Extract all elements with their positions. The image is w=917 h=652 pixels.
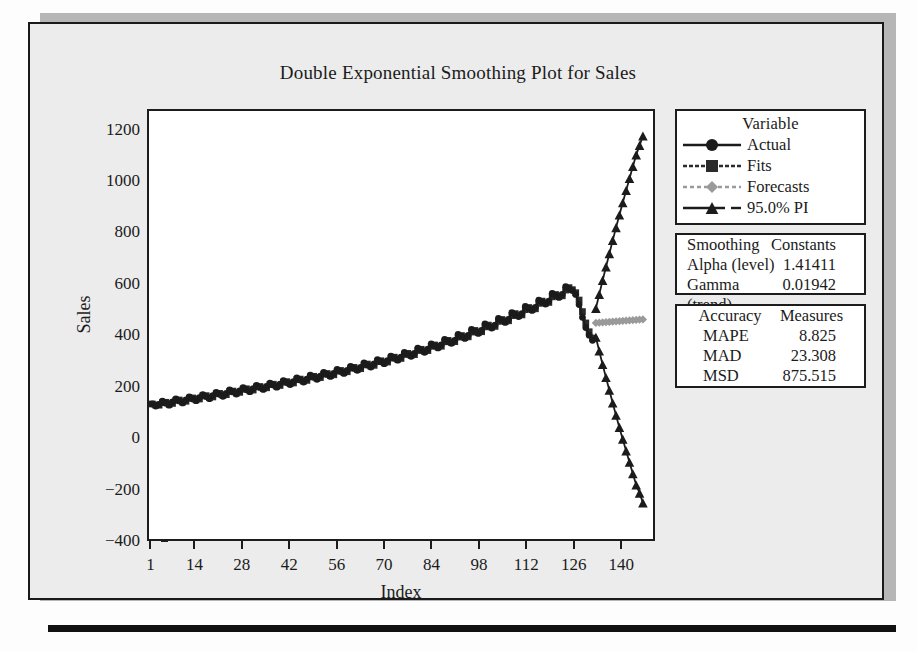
accuracy-measures-box: Accuracy Measures MAPE8.825MAD23.308MSD8… xyxy=(675,304,866,388)
scanned-page: Double Exponential Smoothing Plot for Sa… xyxy=(0,0,917,652)
stat-value: 23.308 xyxy=(783,346,854,366)
y-tick-label: 0 xyxy=(132,428,141,448)
x-axis-ticks: 114284256708498112126140 xyxy=(147,541,655,581)
triangle-marker xyxy=(681,197,743,218)
x-tick-label: 1 xyxy=(146,555,155,575)
stat-value: 1.41411 xyxy=(783,255,854,275)
x-tick-mark xyxy=(525,541,527,549)
y-tick-label: −400 xyxy=(105,531,140,551)
legend-item-label: Actual xyxy=(747,135,791,155)
accuracy-measures-header: Accuracy Measures xyxy=(677,306,864,326)
legend-header: Variable xyxy=(677,111,864,134)
x-tick-label: 84 xyxy=(423,555,440,575)
y-tick-label: 1000 xyxy=(106,171,140,191)
x-tick-label: 28 xyxy=(233,555,250,575)
x-tick-mark xyxy=(620,541,622,549)
y-axis-label: Sales xyxy=(74,255,95,375)
accuracy-header-right: Measures xyxy=(773,306,854,326)
x-tick-label: 126 xyxy=(561,555,587,575)
accuracy-measures-rows: MAPE8.825MAD23.308MSD875.515 xyxy=(677,326,864,386)
x-tick-mark xyxy=(383,541,385,549)
stat-key: Gamma (trend) xyxy=(687,275,782,295)
legend-box: Variable ActualFitsForecasts95.0% PI xyxy=(675,109,866,225)
smoothing-header-right: Constants xyxy=(765,235,854,255)
stat-key: Alpha (level) xyxy=(687,255,783,275)
x-tick-mark xyxy=(193,541,195,549)
diamond-marker xyxy=(681,176,743,197)
y-tick-label: 1200 xyxy=(106,120,140,140)
x-tick-mark xyxy=(288,541,290,549)
y-axis-ticks: 120010008006004002000−200−400 xyxy=(50,109,140,541)
y-tick-label: 200 xyxy=(115,377,141,397)
stat-key: MAPE xyxy=(687,326,783,346)
stat-row: MAPE8.825 xyxy=(677,326,864,346)
circle-marker xyxy=(681,134,743,155)
smoothing-header-left: Smoothing xyxy=(687,235,765,255)
stat-value: 8.825 xyxy=(783,326,854,346)
x-tick-label: 112 xyxy=(514,555,539,575)
stat-row: Gamma (trend)0.01942 xyxy=(677,275,864,295)
legend-item[interactable]: Fits xyxy=(677,155,864,176)
stat-value: 875.515 xyxy=(782,366,854,386)
smoothing-constants-box: Smoothing Constants Alpha (level)1.41411… xyxy=(675,233,866,295)
x-axis-label: Index xyxy=(147,582,655,603)
legend-item[interactable]: Actual xyxy=(677,134,864,155)
stat-row: Alpha (level)1.41411 xyxy=(677,255,864,275)
stat-key: MAD xyxy=(687,346,783,366)
legend-item[interactable]: Forecasts xyxy=(677,176,864,197)
page-rule xyxy=(48,625,896,632)
figure-panel: Double Exponential Smoothing Plot for Sa… xyxy=(28,22,884,600)
plot-svg xyxy=(149,111,653,539)
legend-item-label: Forecasts xyxy=(747,177,809,197)
plot-area xyxy=(147,109,655,541)
y-tick-label: 800 xyxy=(115,222,141,242)
legend-rows: ActualFitsForecasts95.0% PI xyxy=(677,134,864,218)
x-tick-mark xyxy=(430,541,432,549)
x-tick-label: 42 xyxy=(281,555,298,575)
square-marker xyxy=(681,155,743,176)
y-tick-label: 400 xyxy=(115,325,141,345)
x-tick-mark xyxy=(478,541,480,549)
accuracy-header-left: Accuracy xyxy=(687,306,773,326)
y-tick-label: 600 xyxy=(115,274,141,294)
legend-item[interactable]: 95.0% PI xyxy=(677,197,864,218)
smoothing-constants-rows: Alpha (level)1.41411Gamma (trend)0.01942 xyxy=(677,255,864,295)
legend-item-label: 95.0% PI xyxy=(747,198,808,218)
smoothing-constants-header: Smoothing Constants xyxy=(677,235,864,255)
chart-title: Double Exponential Smoothing Plot for Sa… xyxy=(30,62,886,84)
stat-row: MSD875.515 xyxy=(677,366,864,386)
x-tick-mark xyxy=(336,541,338,549)
x-tick-mark xyxy=(573,541,575,549)
x-tick-label: 14 xyxy=(186,555,203,575)
stat-value: 0.01942 xyxy=(782,275,854,295)
legend-item-label: Fits xyxy=(747,156,772,176)
y-tick-label: −200 xyxy=(105,480,140,500)
x-tick-mark xyxy=(241,541,243,549)
x-tick-label: 70 xyxy=(376,555,393,575)
x-tick-label: 140 xyxy=(608,555,634,575)
stat-key: MSD xyxy=(687,366,782,386)
x-tick-label: 98 xyxy=(470,555,487,575)
stat-row: MAD23.308 xyxy=(677,346,864,366)
x-tick-mark xyxy=(149,541,151,549)
x-tick-label: 56 xyxy=(328,555,345,575)
